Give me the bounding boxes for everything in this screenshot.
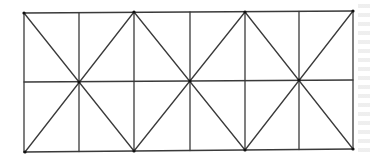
- bottom-node-1: [132, 149, 135, 152]
- bottom-border: [24, 149, 353, 152]
- top-left-corner: [22, 11, 25, 14]
- top-border: [24, 11, 353, 13]
- top-node-2: [243, 10, 246, 13]
- center-node-1: [77, 80, 80, 83]
- bottom-right-corner: [351, 147, 354, 150]
- top-node-1: [132, 10, 135, 13]
- bottom-left-corner: [23, 150, 26, 153]
- faint-watermark-pattern: [358, 4, 370, 156]
- grid-diagram: [0, 0, 370, 160]
- center-node-3: [297, 78, 300, 81]
- bottom-node-2: [243, 148, 246, 151]
- top-right-corner: [351, 9, 354, 12]
- center-node-2: [188, 79, 191, 82]
